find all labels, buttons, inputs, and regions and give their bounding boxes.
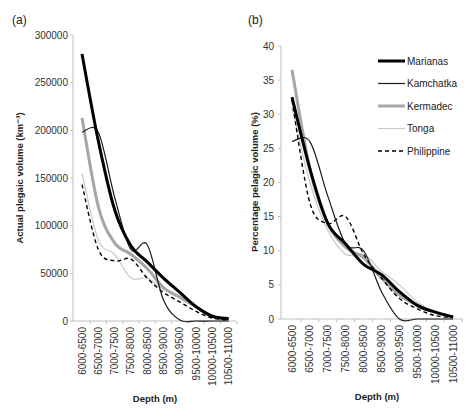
y-tick-label: 15 [263,211,275,222]
y-tick-label: 10 [263,245,275,256]
series-line-philippine [82,185,229,320]
y-tick-label: 5 [268,279,274,290]
y-tick-label: 100000 [35,220,69,231]
x-tick-label: 6500-7000 [304,325,315,373]
legend: MarianasKamchatkaKermadecTongaPhilippine [378,56,457,157]
series-line-kamchatka [292,138,453,322]
chart-b: (b) 0510152025303540 6000-65006500-70007… [248,13,463,402]
x-tick-label: 10500-11000 [223,327,234,386]
x-tick-label: 9500-10000 [412,325,423,379]
y-ticks-b: 0510152025303540 [263,41,281,325]
x-tick-label: 10000-10500 [430,325,441,384]
y-tick-label: 0 [268,314,274,325]
figure: (a) 050000100000150000200000250000300000… [0,0,474,420]
legend-label-kermadec: Kermadec [407,101,453,112]
y-tick-label: 50000 [40,268,68,279]
series-line-tonga [82,173,229,320]
x-ticks-b: 6000-65006500-70007000-75007500-80008000… [287,319,463,384]
legend-label-philippine: Philippine [407,146,451,157]
legend-label-kamchatka: Kamchatka [407,78,457,89]
y-tick-label: 0 [62,316,68,327]
x-tick-label: 9000-9500 [394,325,405,373]
y-tick-label: 20 [263,177,275,188]
x-tick-label: 8000-8500 [142,327,153,375]
y-tick-label: 35 [263,75,275,86]
series-line-tonga [292,107,453,317]
y-tick-label: 150000 [35,173,69,184]
x-tick-label: 8500-9000 [158,327,169,375]
x-tick-label: 7500-8000 [340,325,351,373]
series-line-kermadec [82,118,229,320]
x-tick-label: 7000-7500 [322,325,333,373]
y-tick-label: 40 [263,41,275,52]
y-tick-label: 30 [263,109,275,120]
x-tick-label: 10500-11000 [448,325,459,384]
x-tick-label: 9000-9500 [174,327,185,375]
x-tick-label: 6000-6500 [287,325,298,373]
series-lines-a [82,54,229,322]
x-tick-label: 6500-7000 [93,327,104,375]
y-tick-label: 250000 [35,77,69,88]
y-tick-label: 300000 [35,30,69,41]
x-tick-label: 8500-9000 [376,325,387,373]
x-ticks-a: 6000-65006500-70007000-75007500-80008000… [77,321,237,386]
x-tick-label: 7500-8000 [125,327,136,375]
x-tick-label: 10000-10500 [207,327,218,386]
x-tick-label: 9500-10000 [191,327,202,381]
y-tick-label: 25 [263,143,275,154]
chart-a: (a) 050000100000150000200000250000300000… [12,13,237,404]
y-axis-title-b: Percentage pelagic volume (%) [249,112,260,252]
y-ticks-a: 050000100000150000200000250000300000 [35,30,73,327]
x-axis-title-b: Depth (m) [355,391,399,402]
panel-a-label: (a) [12,13,27,27]
x-tick-label: 7000-7500 [109,327,120,375]
legend-label-tonga: Tonga [407,123,435,134]
x-tick-label: 6000-6500 [77,327,88,375]
y-axis-title-a: Actual plegaic volume (km⁻³) [14,112,25,243]
y-tick-label: 200000 [35,125,69,136]
panel-b-label: (b) [248,13,263,27]
legend-label-marianas: Marianas [407,56,448,67]
x-tick-label: 8000-8500 [358,325,369,373]
x-axis-title-a: Depth (m) [133,393,177,404]
